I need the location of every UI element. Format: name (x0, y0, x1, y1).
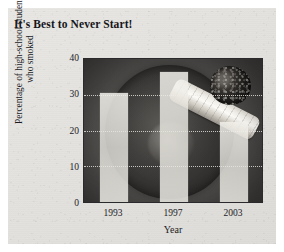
x-axis-ticks: 199319972003 (83, 208, 263, 222)
y-axis-ticks: 403020100 (57, 58, 79, 203)
y-tick-label-40: 40 (59, 53, 79, 63)
figure-root: It's Best to Never Start! Percentage of … (0, 0, 284, 252)
y-tick-label-30: 30 (59, 89, 79, 99)
y-tick-label-10: 10 (59, 162, 79, 172)
bar-1993 (100, 93, 128, 202)
x-axis-title: Year (83, 224, 263, 235)
y-tick-label-20: 20 (59, 126, 79, 136)
x-tick-label-1997: 1997 (153, 208, 193, 218)
plot-area (83, 58, 263, 203)
y-tick-label-0: 0 (59, 198, 79, 208)
x-tick-label-1993: 1993 (93, 208, 133, 218)
y-axis-title: Percentage of high-school students who s… (14, 0, 44, 134)
y-axis-title-line2: who smoked (25, 0, 36, 134)
x-tick-label-2003: 2003 (213, 208, 253, 218)
bar-1997 (160, 72, 188, 203)
bar-2003 (220, 122, 248, 202)
y-axis-title-line1: Percentage of high-school students (14, 0, 24, 124)
